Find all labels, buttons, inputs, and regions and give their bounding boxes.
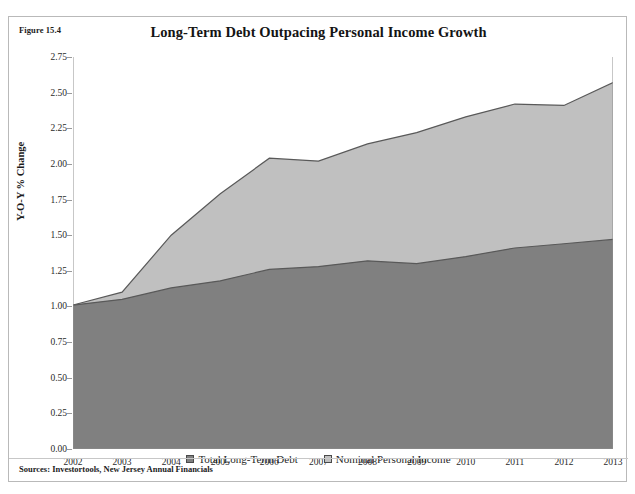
y-tickmark bbox=[67, 413, 72, 414]
source-divider bbox=[9, 458, 628, 459]
y-tickmark bbox=[67, 378, 72, 379]
sources-note: Sources: Investortools, New Jersey Annua… bbox=[19, 464, 213, 474]
y-axis-ticklabels: 0.000.250.500.751.001.251.501.752.002.25… bbox=[31, 57, 67, 449]
y-tick-1.50: 1.50 bbox=[31, 230, 67, 240]
legend-swatch-icon bbox=[324, 455, 332, 463]
legend-item[interactable]: Nominal Personal Income bbox=[324, 453, 451, 465]
y-tick-0.50: 0.50 bbox=[31, 373, 67, 383]
y-tick-2.25: 2.25 bbox=[31, 123, 67, 133]
y-axis-label-text: Y-O-Y % Change bbox=[15, 207, 26, 221]
figure-panel: Figure 15.4 Long-Term Debt Outpacing Per… bbox=[8, 16, 627, 482]
y-tickmark bbox=[67, 271, 72, 272]
y-tickmark bbox=[67, 164, 72, 165]
y-tick-2.75: 2.75 bbox=[31, 52, 67, 62]
y-tickmark bbox=[67, 342, 72, 343]
y-tick-1.25: 1.25 bbox=[31, 266, 67, 276]
y-tickmark bbox=[67, 235, 72, 236]
chart-title: Long-Term Debt Outpacing Personal Income… bbox=[9, 24, 628, 41]
y-tickmark bbox=[67, 306, 72, 307]
y-tick-0.75: 0.75 bbox=[31, 337, 67, 347]
y-tick-1.00: 1.00 bbox=[31, 301, 67, 311]
legend-label: Nominal Personal Income bbox=[336, 453, 451, 465]
y-axis-label: Y-O-Y % Change bbox=[15, 193, 26, 207]
y-tickmark bbox=[67, 449, 72, 450]
y-tick-2.50: 2.50 bbox=[31, 88, 67, 98]
y-tickmark bbox=[67, 93, 72, 94]
x-axis-ticklabels: 2002200320042005200620072008200920102011… bbox=[73, 57, 613, 449]
legend-swatch-icon bbox=[186, 455, 194, 463]
y-tickmark bbox=[67, 128, 72, 129]
y-tickmark bbox=[67, 200, 72, 201]
y-tick-1.75: 1.75 bbox=[31, 195, 67, 205]
y-tickmark bbox=[67, 57, 72, 58]
legend-label: Total Long-Term Debt bbox=[198, 453, 297, 465]
y-tick-2.00: 2.00 bbox=[31, 159, 67, 169]
plot-area: Y-O-Y % Change 0.000.250.500.751.001.251… bbox=[9, 57, 628, 449]
y-tick-0.25: 0.25 bbox=[31, 408, 67, 418]
